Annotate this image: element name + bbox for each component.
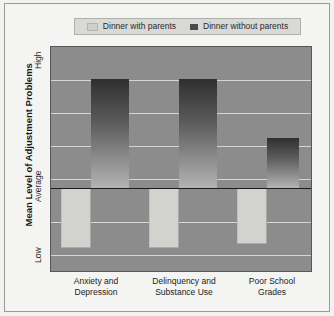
chart-legend: Dinner with parents Dinner without paren…: [74, 18, 301, 35]
legend-label-dinner-without-parents: Dinner without parents: [203, 22, 288, 31]
legend-label-dinner-with-parents: Dinner with parents: [103, 22, 176, 31]
legend-swatch-dark-icon: [190, 24, 198, 30]
plot-area: [50, 46, 312, 272]
average-baseline: [51, 188, 311, 189]
y-tick-label-low: Low: [34, 228, 43, 282]
x-axis-label-line1: Poor School: [220, 276, 324, 287]
gridline: [51, 255, 311, 256]
legend-swatch-light-icon: [87, 23, 98, 31]
legend-item-dinner-with-parents[interactable]: Dinner with parents: [87, 22, 176, 31]
y-tick-label-average: Average: [34, 159, 43, 213]
bar-dinner-without-parents-anxiety[interactable]: [91, 79, 129, 188]
bar-dinner-with-parents-anxiety[interactable]: [61, 188, 91, 248]
bar-dinner-with-parents-delinquency[interactable]: [149, 188, 179, 248]
bar-dinner-without-parents-grades[interactable]: [267, 138, 299, 188]
x-axis-label-poor-school-grades: Poor School Grades: [220, 276, 324, 298]
x-axis-label-line2: Grades: [220, 287, 324, 298]
y-tick-label-high: High: [34, 33, 43, 87]
chart-figure: Dinner with parents Dinner without paren…: [0, 0, 334, 316]
bar-dinner-with-parents-grades[interactable]: [237, 188, 267, 244]
legend-item-dinner-without-parents[interactable]: Dinner without parents: [190, 22, 288, 31]
bar-dinner-without-parents-delinquency[interactable]: [179, 79, 217, 188]
y-axis-title: Mean Level of Adjustment Problems: [24, 60, 34, 230]
